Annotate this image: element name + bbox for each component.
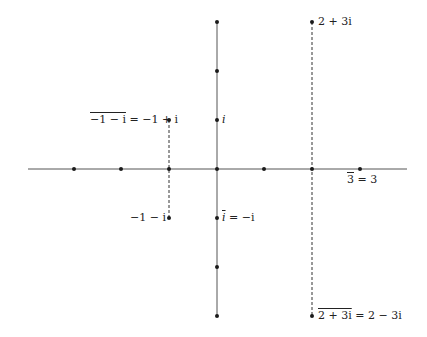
point-neg3i (215, 314, 219, 318)
complex-plane-diagram (0, 0, 427, 337)
point-2 (310, 167, 314, 171)
point-2-minus-3i (310, 314, 314, 318)
label-conj-2-plus-3i-bar: 2 + 3i (318, 309, 352, 322)
label-conj-i: i = −i (222, 212, 254, 224)
point-neg1-minus-i (167, 216, 171, 220)
label-conj-3-rest: = 3 (354, 173, 377, 186)
label-neg1-minus-i: −1 − i (130, 212, 166, 224)
label-i: i (222, 114, 226, 126)
label-conj-2-plus-3i-rest: = 2 − 3i (352, 309, 402, 322)
point-2i (215, 69, 219, 73)
point-1 (262, 167, 266, 171)
point-neg-i (215, 216, 219, 220)
label-conj-2-plus-3i: 2 + 3i = 2 − 3i (318, 310, 402, 322)
point-neg1 (167, 167, 171, 171)
label-conj-neg1-minus-i-bar: −1 − i (90, 113, 126, 126)
label-conj-3-bar: 3 (347, 173, 354, 186)
point-neg3 (72, 167, 76, 171)
point-2-plus-3i (310, 20, 314, 24)
label-conj-neg1-minus-i-rest: = −1 + i (126, 113, 178, 126)
label-conj-3: 3 = 3 (347, 174, 377, 186)
point-neg2 (119, 167, 123, 171)
point-3 (358, 167, 362, 171)
label-conj-neg1-minus-i: −1 − i = −1 + i (90, 114, 178, 126)
label-2-plus-3i: 2 + 3i (318, 16, 352, 28)
point-origin (215, 167, 219, 171)
point-3i (215, 20, 219, 24)
point-neg2i (215, 265, 219, 269)
label-conj-i-rest: = −i (226, 211, 255, 224)
point-i (215, 118, 219, 122)
